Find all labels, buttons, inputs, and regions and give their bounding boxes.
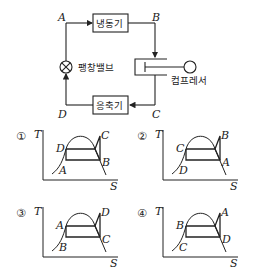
state-label: A: [58, 164, 67, 177]
option-number: ③: [16, 207, 26, 220]
state-label: B: [58, 241, 67, 254]
t-axis-label: T: [34, 205, 43, 218]
t-axis-label: T: [34, 128, 43, 141]
state-label: B: [175, 219, 184, 232]
state-label: D: [221, 233, 231, 246]
point-a-label: A: [57, 11, 66, 24]
state-label: D: [55, 142, 65, 155]
state-label: D: [100, 206, 110, 219]
state-label: A: [221, 156, 230, 169]
evaporator-label: 냉동기: [96, 18, 123, 29]
s-axis-label: S: [110, 180, 118, 193]
condenser-label: 응축기: [96, 100, 123, 111]
refrigeration-figure: A B C D 냉동기 응축기 팽창밸브 컴프레서 ① T S C D A B …: [0, 0, 255, 271]
option-3-ts-diagram: ③ T S D A B C: [16, 205, 118, 270]
compressor-label: 컴프레서: [171, 75, 207, 86]
point-d-label: D: [57, 108, 67, 121]
s-axis-label: S: [110, 257, 118, 270]
s-axis-label: S: [230, 180, 238, 193]
point-c-label: C: [152, 108, 161, 121]
option-number: ②: [137, 130, 147, 143]
state-label: C: [101, 129, 110, 142]
compressor-crank-icon: [184, 61, 196, 73]
state-label: B: [220, 129, 229, 142]
s-axis-label: S: [230, 257, 238, 270]
state-label: D: [178, 164, 188, 177]
point-b-label: B: [151, 11, 160, 24]
state-label: A: [55, 219, 64, 232]
option-2-ts-diagram: ② T S B C D A: [137, 128, 238, 193]
option-number: ④: [137, 207, 147, 220]
state-label: C: [176, 142, 185, 155]
state-label: A: [220, 206, 229, 219]
state-label: C: [179, 241, 188, 254]
expansion-valve-label: 팽창밸브: [78, 62, 114, 73]
state-label: C: [102, 233, 111, 246]
option-number: ①: [16, 130, 26, 143]
state-label: B: [101, 156, 110, 169]
option-4-ts-diagram: ④ T S A B C D: [137, 205, 238, 270]
option-1-ts-diagram: ① T S C D A B: [16, 128, 118, 193]
